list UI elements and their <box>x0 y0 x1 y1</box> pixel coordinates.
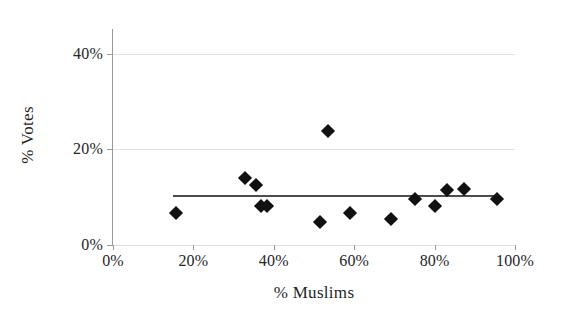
x-tick-label: 80% <box>420 252 450 270</box>
data-point <box>249 178 263 192</box>
data-point <box>343 206 357 220</box>
y-axis-label: % Votes <box>18 75 38 195</box>
data-point <box>428 199 442 213</box>
data-point <box>384 212 398 226</box>
x-tick-mark <box>113 245 114 250</box>
x-tick-mark <box>193 245 194 250</box>
y-tick-label: 40% <box>73 45 103 63</box>
gridline <box>113 245 515 246</box>
y-tick-mark <box>107 54 113 55</box>
x-tick-mark <box>274 245 275 250</box>
x-tick-mark <box>435 245 436 250</box>
data-point <box>457 182 471 196</box>
x-tick-label: 60% <box>339 252 369 270</box>
plot-area <box>113 30 515 245</box>
y-axis-ticks: 0%20%40% <box>0 0 103 323</box>
data-point <box>313 215 327 229</box>
x-tick-label: 100% <box>496 252 534 270</box>
gridline <box>113 149 515 150</box>
gridline <box>113 54 515 55</box>
x-tick-mark <box>354 245 355 250</box>
chart-figure: 0%20%40%60%80%100% 0%20%40% % Muslims % … <box>0 0 566 323</box>
y-tick-mark <box>107 149 113 150</box>
y-tick-label: 0% <box>81 236 103 254</box>
data-point <box>321 124 335 138</box>
y-tick-mark <box>107 245 113 246</box>
y-tick-label: 20% <box>73 140 103 158</box>
x-tick-label: 20% <box>178 252 208 270</box>
x-tick-label: 40% <box>259 252 289 270</box>
x-tick-mark <box>515 245 516 250</box>
x-tick-label: 0% <box>102 252 124 270</box>
data-point <box>169 206 183 220</box>
x-axis-label: % Muslims <box>113 283 515 303</box>
